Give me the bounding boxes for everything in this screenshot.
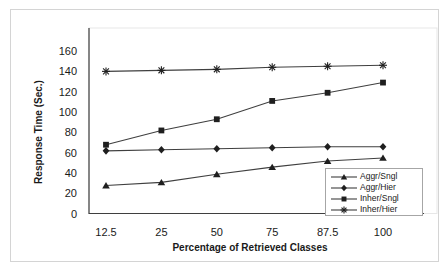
marker-asterisk-icon — [102, 67, 110, 75]
series-line-inher-hier — [106, 65, 383, 71]
marker-diamond-icon — [341, 184, 347, 190]
legend-item-label: Inher/Sngl — [360, 193, 399, 204]
legend: Aggr/SnglAggr/HierInher/SnglInher/Hier — [325, 168, 423, 216]
y-tick-label: 100 — [59, 106, 77, 118]
legend-item-aggr-hier: Aggr/Hier — [331, 182, 422, 193]
legend-marker-square-icon — [331, 194, 357, 204]
x-tick-label: 75 — [266, 226, 278, 238]
y-tick-label: 0 — [71, 208, 77, 220]
y-tick-label: 60 — [65, 147, 77, 159]
x-tick-label: 87.5 — [317, 226, 338, 238]
marker-asterisk-icon — [268, 63, 276, 71]
marker-diamond-icon — [158, 146, 165, 154]
y-tick-label: 40 — [65, 167, 77, 179]
marker-diamond-icon — [269, 144, 276, 152]
y-tick-label: 160 — [59, 45, 77, 57]
marker-asterisk-icon — [213, 65, 221, 73]
marker-square-icon — [269, 98, 275, 104]
marker-square-icon — [380, 80, 386, 86]
marker-diamond-icon — [380, 143, 387, 151]
marker-square-icon — [159, 128, 165, 134]
legend-item-inher-sngl: Inher/Sngl — [331, 193, 422, 204]
legend-marker-diamond-icon — [331, 183, 357, 193]
marker-asterisk-icon — [379, 61, 387, 69]
y-tick-label: 120 — [59, 86, 77, 98]
legend-item-aggr-sngl: Aggr/Sngl — [331, 171, 422, 182]
y-tick-label: 80 — [65, 126, 77, 138]
y-axis-title: Response Time (Sec.) — [33, 27, 47, 237]
x-axis-title: Percentage of Retrieved Classes — [140, 242, 360, 253]
x-tick-label: 100 — [374, 226, 392, 238]
chart-figure: 02040608010012014016012.525507587.5100 R… — [0, 0, 445, 273]
marker-square-icon — [214, 116, 220, 122]
legend-item-label: Aggr/Sngl — [360, 171, 397, 182]
legend-marker-triangle-icon — [331, 172, 357, 182]
marker-square-icon — [103, 142, 109, 148]
series-line-inher-sngl — [106, 83, 383, 145]
marker-asterisk-icon — [157, 66, 165, 74]
x-tick-label: 12.5 — [95, 226, 116, 238]
marker-diamond-icon — [103, 147, 110, 155]
series-line-aggr-hier — [106, 147, 383, 151]
marker-diamond-icon — [324, 143, 331, 151]
legend-item-inher-hier: Inher/Hier — [331, 204, 422, 215]
marker-square-icon — [342, 196, 347, 201]
marker-asterisk-icon — [324, 62, 332, 70]
line-chart: 02040608010012014016012.525507587.5100 — [0, 0, 445, 273]
marker-asterisk-icon — [341, 206, 348, 213]
x-tick-label: 25 — [155, 226, 167, 238]
y-tick-label: 140 — [59, 65, 77, 77]
legend-item-label: Aggr/Hier — [360, 182, 396, 193]
y-tick-label: 20 — [65, 187, 77, 199]
marker-square-icon — [325, 90, 331, 96]
legend-marker-asterisk-icon — [331, 205, 357, 215]
x-tick-label: 50 — [211, 226, 223, 238]
marker-diamond-icon — [213, 145, 220, 153]
legend-item-label: Inher/Hier — [360, 204, 397, 215]
